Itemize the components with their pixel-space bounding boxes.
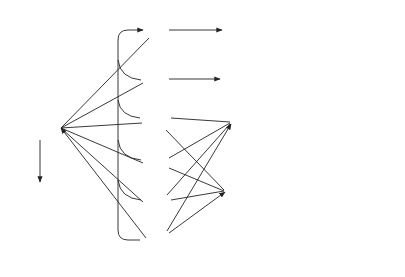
connected-to-edges — [118, 30, 143, 240]
part-of-edges — [61, 38, 149, 238]
x-to-leg-edges — [167, 118, 231, 231]
diagram-canvas — [0, 0, 405, 277]
